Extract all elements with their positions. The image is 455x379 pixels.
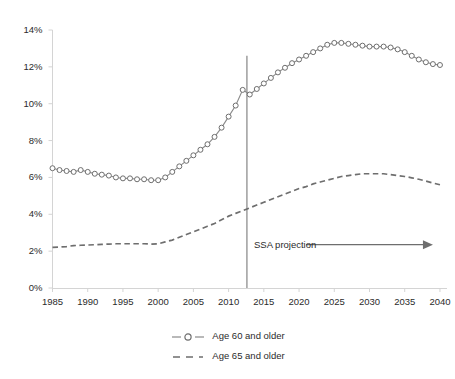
data-point-marker [198,147,203,152]
data-point-marker [437,63,442,68]
x-tick-label: 1985 [36,296,70,307]
data-point-marker [430,62,435,67]
legend-marker-age-60 [170,329,206,341]
y-tick-label: 4% [13,208,43,219]
data-point-marker [135,177,140,182]
y-tick-label: 6% [13,171,43,182]
data-point-marker [177,164,182,169]
data-point-marker [156,178,161,183]
data-point-marker [339,40,344,45]
data-point-marker [226,114,231,119]
x-tick-label: 2020 [282,296,316,307]
line-chart-plot [0,0,455,379]
ssa-projection-arrow [306,240,433,249]
data-point-marker [311,50,316,55]
x-tick-label: 2030 [353,296,387,307]
data-point-marker [325,42,330,47]
legend-label-age-60: Age 60 and older [212,330,284,341]
x-tick-label: 2005 [176,296,210,307]
data-point-marker [113,175,118,180]
legend-label-age-65: Age 65 and older [212,350,284,361]
x-tick-label: 1990 [71,296,105,307]
data-point-marker [219,125,224,130]
data-point-marker [247,92,252,97]
data-point-marker [409,53,414,58]
data-point-marker [205,142,210,147]
data-point-marker [71,169,76,174]
data-point-marker [92,171,97,176]
data-point-marker [163,175,168,180]
data-point-marker [78,168,83,173]
data-point-marker [142,177,147,182]
data-point-marker [57,168,62,173]
x-tick-label: 2040 [423,296,455,307]
data-point-marker [106,173,111,178]
x-tick-label: 1995 [106,296,140,307]
x-tick-label: 2035 [388,296,422,307]
y-axis-ticks [49,30,53,288]
data-point-marker [254,86,259,91]
data-point-marker [346,41,351,46]
data-point-marker [423,60,428,65]
data-point-marker [367,44,372,49]
data-point-marker [64,168,69,173]
data-point-marker [388,45,393,50]
data-point-marker [353,42,358,47]
data-point-marker [297,57,302,62]
data-point-marker [127,176,132,181]
y-tick-label: 14% [13,24,43,35]
data-point-marker [268,75,273,80]
data-point-marker [290,61,295,66]
series-markers-age-60 [50,40,442,182]
data-point-marker [332,40,337,45]
series-line-age-65 [53,174,440,248]
data-point-marker [50,166,55,171]
data-point-marker [85,169,90,174]
data-point-marker [191,153,196,158]
y-tick-label: 12% [13,61,43,72]
data-point-marker [275,70,280,75]
data-point-marker [212,134,217,139]
data-point-marker [120,176,125,181]
x-tick-label: 2025 [317,296,351,307]
chart-container: SSA projection 0%2%4%6%8%10%12%14% 19851… [0,0,455,379]
y-tick-label: 8% [13,135,43,146]
data-point-marker [170,169,175,174]
data-point-marker [233,103,238,108]
chart-legend: Age 60 and older Age 65 and older [0,325,455,365]
legend-item-age-65[interactable]: Age 65 and older [0,345,455,365]
y-tick-label: 10% [13,98,43,109]
data-point-marker [261,81,266,86]
x-tick-label: 2015 [247,296,281,307]
x-tick-label: 2000 [141,296,175,307]
data-point-marker [402,50,407,55]
data-point-marker [416,57,421,62]
ssa-projection-label: SSA projection [254,239,316,250]
legend-item-age-60[interactable]: Age 60 and older [0,325,455,345]
x-tick-label: 2010 [212,296,246,307]
data-point-marker [240,87,245,92]
data-point-marker [374,44,379,49]
data-point-marker [395,47,400,52]
data-point-marker [360,43,365,48]
data-point-marker [318,46,323,51]
legend-marker-age-65 [170,349,206,361]
data-point-marker [99,172,104,177]
series-line-age-60 [53,43,440,180]
y-tick-label: 0% [13,282,43,293]
data-point-marker [184,158,189,163]
data-point-marker [149,178,154,183]
y-tick-label: 2% [13,245,43,256]
data-point-marker [282,65,287,70]
data-point-marker [304,53,309,58]
data-point-marker [381,44,386,49]
